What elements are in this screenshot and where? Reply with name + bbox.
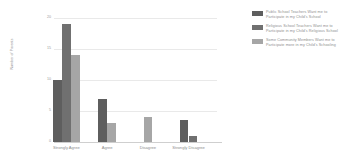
y-axis-tick-label: 5 xyxy=(49,109,51,113)
y-axis-title: Number of Parents xyxy=(10,24,14,84)
legend: Public School Teachers Want me to Partic… xyxy=(252,10,340,53)
legend-swatch xyxy=(252,25,263,30)
legend-swatch xyxy=(252,11,263,16)
y-axis-tick-label: 20 xyxy=(47,16,51,20)
legend-item[interactable]: Religious School Teachers Want me to Par… xyxy=(252,24,340,33)
bar xyxy=(180,120,189,142)
bar xyxy=(71,55,80,142)
bar xyxy=(107,123,116,142)
bar xyxy=(53,80,62,142)
bar xyxy=(144,117,153,142)
y-axis-tick-label: 15 xyxy=(47,47,51,51)
plot-area: 05101520 Strongly AgreeAgreeDisagreeStro… xyxy=(54,18,217,142)
bar-chart: Number of Parents 05101520 Strongly Agre… xyxy=(0,0,342,162)
y-axis-tick-label: 10 xyxy=(47,78,51,82)
gridline xyxy=(54,18,217,19)
legend-item[interactable]: Some Community Members Want me to Partic… xyxy=(252,38,340,47)
legend-label: Some Community Members Want me to Partic… xyxy=(266,38,340,47)
x-axis-label: Strongly Disagree xyxy=(163,145,215,150)
legend-swatch xyxy=(252,39,263,44)
x-axis-line xyxy=(54,142,222,143)
gridline xyxy=(54,49,217,50)
legend-label: Public School Teachers Want me to Partic… xyxy=(266,10,340,19)
legend-label: Religious School Teachers Want me to Par… xyxy=(266,24,340,33)
legend-item[interactable]: Public School Teachers Want me to Partic… xyxy=(252,10,340,19)
y-axis-tick-label: 0 xyxy=(49,140,51,144)
bar xyxy=(98,99,107,142)
bar xyxy=(62,24,71,142)
bar xyxy=(189,136,198,142)
